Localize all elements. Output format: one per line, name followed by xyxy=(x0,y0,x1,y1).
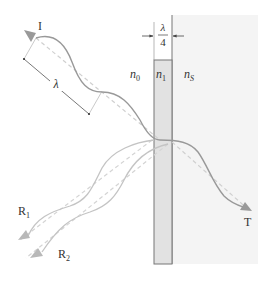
wavelength-label: λ xyxy=(52,77,58,91)
reflected-1-label: R1 xyxy=(18,204,30,220)
incident-label: I xyxy=(38,19,42,33)
reflected-1-arrowhead xyxy=(18,230,30,240)
incident-arrowhead xyxy=(24,30,36,42)
transmitted-label: T xyxy=(244,215,252,229)
wavelength-guide-start xyxy=(24,38,36,59)
reflected-2-label: R2 xyxy=(58,247,70,263)
coating-layer xyxy=(154,60,172,264)
anti-reflection-diagram: λ 4 n0 n1 nS I λ T R1 R2 xyxy=(0,0,272,281)
reflected-2-ray-path xyxy=(26,144,168,258)
reflected-2-wave xyxy=(42,144,168,252)
wavelength-guide-end xyxy=(89,93,101,114)
reflected-1-wave xyxy=(28,140,154,236)
medium-index-label: n0 xyxy=(130,67,140,83)
thickness-denominator: 4 xyxy=(160,36,166,48)
reflected-1-ray-path xyxy=(20,140,152,240)
thickness-numerator: λ xyxy=(160,21,166,33)
